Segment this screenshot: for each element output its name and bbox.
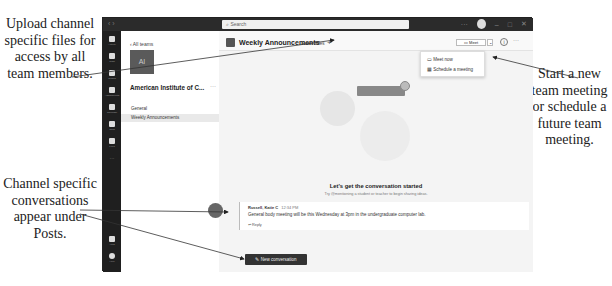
conversation-illustration — [320, 81, 430, 166]
meet-menu: ▭ Meet now ▦ Schedule a meeting — [420, 51, 485, 77]
help-icon — [109, 253, 115, 259]
apps-icon — [109, 236, 115, 242]
history-nav[interactable]: ‹ › — [108, 20, 115, 27]
rail-activity[interactable]: Activity — [103, 36, 121, 46]
meet-button[interactable]: ▭ Meet — [456, 39, 486, 46]
search-input[interactable]: ⌕ Search — [222, 20, 409, 29]
reply-button[interactable]: ↩ Reply — [248, 222, 262, 227]
rail-apps[interactable]: Apps — [103, 236, 121, 246]
more-options-button[interactable]: ··· — [513, 37, 519, 43]
channel-weekly-announcements[interactable]: Weekly Announcements — [121, 114, 219, 122]
channel-general[interactable]: General — [121, 105, 219, 113]
rail-files[interactable]: Files — [103, 138, 121, 148]
rail-assignments[interactable]: Assignments — [103, 87, 121, 97]
new-conversation-button[interactable]: ✎ New conversation — [245, 254, 307, 265]
calendar-icon — [109, 104, 115, 110]
channel-header: Weekly Announcements Posts Files + ▭ Mee… — [219, 31, 533, 51]
tab-files[interactable]: Files — [315, 41, 325, 46]
assignments-icon — [109, 87, 115, 93]
post-time: 12:34 PM — [281, 205, 298, 210]
app-rail: Activity Chat Teams Assignments Calendar… — [103, 31, 121, 272]
chat-icon — [109, 53, 115, 59]
rail-teams[interactable]: Teams — [103, 70, 121, 80]
caption-posts: Channel specific conversations appear un… — [0, 176, 100, 242]
channel-main: Weekly Announcements Posts Files + ▭ Mee… — [219, 31, 533, 272]
channel-post: Russell, Katie C12:34 PM General body me… — [239, 202, 529, 230]
teams-icon — [109, 70, 115, 76]
meet-dropdown-chevron[interactable]: ⌄ — [487, 39, 493, 46]
info-icon[interactable]: i — [500, 38, 508, 46]
add-tab-button[interactable]: + — [327, 38, 332, 47]
settings-more[interactable]: ··· — [461, 21, 468, 28]
teams-window: ‹ › ⌕ Search ··· – □ ✕ Activity Chat Tea… — [102, 17, 532, 271]
bell-icon — [109, 36, 115, 42]
rail-calendar[interactable]: Calendar — [103, 104, 121, 114]
close-button[interactable]: ✕ — [521, 20, 527, 28]
caption-files: Upload channel specific files for access… — [0, 16, 100, 82]
rail-chat[interactable]: Chat — [103, 53, 121, 63]
rail-calls[interactable]: Calls — [103, 121, 121, 131]
team-avatar: AI — [130, 50, 154, 74]
phone-icon — [109, 121, 115, 127]
team-more-button[interactable]: ··· — [210, 83, 216, 89]
menu-meet-now[interactable]: ▭ Meet now — [427, 57, 453, 62]
minimize-button[interactable]: – — [495, 21, 499, 28]
menu-schedule-meeting[interactable]: ▦ Schedule a meeting — [427, 67, 473, 72]
post-author: Russell, Katie C12:34 PM — [248, 205, 298, 210]
post-body: General body meeting will be this Wednes… — [248, 212, 426, 217]
title-bar: ‹ › ⌕ Search ··· – □ ✕ — [103, 18, 533, 31]
all-teams-link[interactable]: ‹ All teams — [130, 41, 153, 47]
file-icon — [109, 138, 115, 144]
caption-meet: Start a new team meeting or schedule a f… — [527, 66, 612, 149]
rail-more[interactable]: ··· — [103, 155, 121, 161]
empty-state-subtitle: Try @mentioning a student or teacher to … — [219, 192, 533, 196]
profile-avatar[interactable] — [477, 19, 486, 29]
maximize-button[interactable]: □ — [508, 21, 512, 28]
author-avatar[interactable] — [208, 203, 223, 218]
tab-posts[interactable]: Posts — [302, 41, 313, 46]
team-name: American Institute of C... — [130, 84, 204, 91]
channel-icon — [226, 38, 235, 47]
rail-help[interactable]: Help — [103, 253, 121, 263]
team-pane: ‹ All teams AI American Institute of C..… — [121, 31, 219, 272]
empty-state-title: Let's get the conversation started — [219, 183, 533, 189]
